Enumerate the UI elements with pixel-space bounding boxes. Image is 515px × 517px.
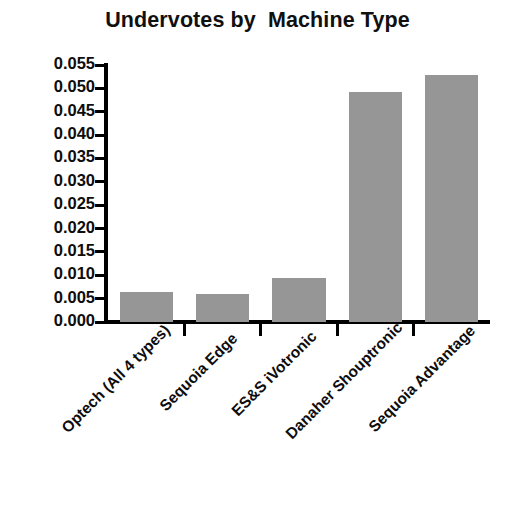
x-axis-category-label: Optech (All 4 types) [58, 321, 174, 437]
x-axis-category-labels: Optech (All 4 types)Sequoia EdgeES&S iVo… [0, 0, 515, 517]
bar-chart-figure: Undervotes by Machine Type 0.0000.0050.0… [0, 0, 515, 517]
x-axis-category-label: Sequoia Edge [156, 330, 241, 415]
